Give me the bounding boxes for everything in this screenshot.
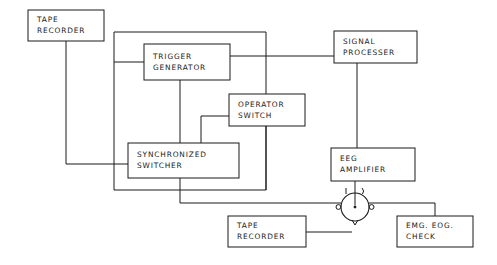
rotary-switch-contact-right: [362, 188, 364, 194]
node-tape-recorder-top[interactable]: TAPERECORDER: [28, 10, 104, 41]
wire-rotary-to-emg-eog-check: [369, 203, 435, 216]
node-operator-switch[interactable]: OPERATORSWITCH: [229, 94, 305, 126]
rotary-switch-hub: [354, 206, 357, 209]
tape-recorder-top-label-line-1: RECORDER: [37, 26, 85, 35]
synchronized-switcher-label-line-0: SYNCHRONIZED: [137, 150, 207, 159]
trigger-generator-label-line-0: TRIGGER: [152, 52, 192, 61]
emg-eog-check-label-line-0: EMG. EOG.: [406, 221, 454, 230]
trigger-generator-label-line-1: GENERATOR: [153, 63, 206, 72]
tape-recorder-top-label-line-0: TAPE: [36, 15, 59, 24]
signal-processer-label-line-1: PROCESSER: [343, 48, 395, 57]
tape-recorder-bottom-label-line-1: RECORDER: [237, 232, 285, 241]
rotary-switch-terminal-left: [336, 205, 341, 210]
node-trigger-generator[interactable]: TRIGGERGENERATOR: [144, 44, 230, 80]
node-layer: TAPERECORDERTRIGGERGENERATORSIGNALPROCES…: [28, 10, 473, 247]
block-diagram: TAPERECORDERTRIGGERGENERATORSIGNALPROCES…: [0, 0, 497, 265]
signal-processer-label-line-0: SIGNAL: [343, 37, 375, 46]
synchronized-switcher-label-line-1: SWITCHER: [137, 161, 183, 170]
eeg-amplifier-label-line-1: AMPLIFIER: [340, 165, 386, 174]
wire-tape-top-to-synchronized-switcher: [66, 41, 128, 164]
node-synchronized-switcher[interactable]: SYNCHRONIZEDSWITCHER: [128, 143, 239, 178]
rotary-switch-terminal-right: [369, 205, 374, 210]
node-emg-eog-check[interactable]: EMG. EOG.CHECK: [397, 216, 473, 247]
operator-switch-label-line-0: OPERATOR: [238, 100, 285, 109]
tape-recorder-bottom-label-line-0: TAPE: [236, 221, 259, 230]
node-tape-recorder-bottom[interactable]: TAPERECORDER: [228, 216, 306, 247]
operator-switch-label-line-1: SWITCH: [238, 111, 272, 120]
diagram-canvas: TAPERECORDERTRIGGERGENERATORSIGNALPROCES…: [0, 0, 497, 265]
node-signal-processer[interactable]: SIGNALPROCESSER: [334, 31, 417, 63]
rotary-switch-layer: [336, 188, 374, 225]
emg-eog-check-label-line-1: CHECK: [406, 232, 436, 241]
node-eeg-amplifier[interactable]: EEGAMPLIFIER: [331, 148, 415, 181]
eeg-amplifier-label-line-0: EEG: [340, 154, 358, 163]
rotary-switch[interactable]: [336, 188, 374, 225]
